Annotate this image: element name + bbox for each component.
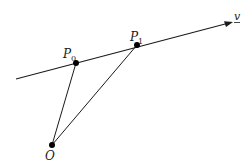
arrow-head-icon [224,21,233,27]
diagram-canvas: P0 P1 O v [0,0,250,167]
label-v: v [234,10,241,23]
label-o: O [45,149,55,163]
segment-o-p0 [52,63,76,145]
point-o [49,142,55,148]
line-v [16,23,228,79]
label-p0: P0 [62,47,76,63]
label-p1: P1 [129,30,143,46]
